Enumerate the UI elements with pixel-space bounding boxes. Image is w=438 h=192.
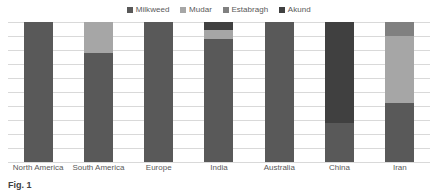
bar-slot bbox=[68, 22, 128, 162]
stacked-bar[interactable] bbox=[24, 22, 53, 162]
caption-label: Fig. 1 bbox=[8, 180, 32, 190]
legend-entry-akund[interactable]: Akund bbox=[279, 5, 310, 14]
legend-swatch-icon bbox=[223, 7, 229, 13]
legend-entry-estabragh[interactable]: Estabragh bbox=[223, 5, 268, 14]
bar-slot bbox=[189, 22, 249, 162]
legend-label: Akund bbox=[288, 5, 311, 14]
figure-caption: Fig. 1 bbox=[8, 180, 432, 192]
legend-label: Milkweed bbox=[136, 5, 170, 14]
bar-slot bbox=[310, 22, 370, 162]
bar-segment-mudar[interactable] bbox=[385, 36, 414, 103]
bar-series-container bbox=[8, 22, 430, 162]
bar-segment-milkweed[interactable] bbox=[385, 103, 414, 162]
stacked-bar[interactable] bbox=[385, 22, 414, 162]
plot-area bbox=[8, 22, 430, 162]
bar-slot bbox=[370, 22, 430, 162]
bar-slot bbox=[8, 22, 68, 162]
bar-segment-akund[interactable] bbox=[204, 22, 233, 30]
legend-swatch-icon bbox=[180, 7, 186, 13]
bar-segment-mudar[interactable] bbox=[204, 30, 233, 38]
bar-segment-milkweed[interactable] bbox=[325, 123, 354, 162]
bar-segment-estabragh[interactable] bbox=[385, 22, 414, 36]
category-label: Europe bbox=[129, 163, 189, 173]
stacked-bar[interactable] bbox=[144, 22, 173, 162]
legend-label: Mudar bbox=[189, 5, 212, 14]
stacked-bar[interactable] bbox=[84, 22, 113, 162]
bar-segment-milkweed[interactable] bbox=[204, 39, 233, 162]
stacked-column-chart-figure: MilkweedMudarEstabraghAkund North Americ… bbox=[0, 0, 438, 192]
legend-label: Estabragh bbox=[231, 5, 268, 14]
chart-legend: MilkweedMudarEstabraghAkund bbox=[0, 3, 438, 16]
category-label: Iran bbox=[370, 163, 430, 173]
legend-entry-milkweed[interactable]: Milkweed bbox=[127, 5, 169, 14]
category-label: China bbox=[310, 163, 370, 173]
stacked-bar[interactable] bbox=[265, 22, 294, 162]
category-label: India bbox=[189, 163, 249, 173]
stacked-bar[interactable] bbox=[325, 22, 354, 162]
bar-segment-milkweed[interactable] bbox=[84, 53, 113, 162]
bar-segment-mudar[interactable] bbox=[84, 22, 113, 53]
legend-swatch-icon bbox=[279, 7, 285, 13]
category-label: South America bbox=[68, 163, 128, 173]
category-label: Australia bbox=[249, 163, 309, 173]
legend-entry-mudar[interactable]: Mudar bbox=[180, 5, 211, 14]
stacked-bar[interactable] bbox=[204, 22, 233, 162]
bar-segment-akund[interactable] bbox=[325, 22, 354, 123]
bar-slot bbox=[249, 22, 309, 162]
bar-slot bbox=[129, 22, 189, 162]
bar-segment-milkweed[interactable] bbox=[265, 22, 294, 162]
bar-segment-milkweed[interactable] bbox=[144, 22, 173, 162]
bar-segment-milkweed[interactable] bbox=[24, 22, 53, 162]
category-label: North America bbox=[8, 163, 68, 173]
legend-swatch-icon bbox=[127, 7, 133, 13]
category-axis: North AmericaSouth AmericaEuropeIndiaAus… bbox=[8, 163, 430, 177]
